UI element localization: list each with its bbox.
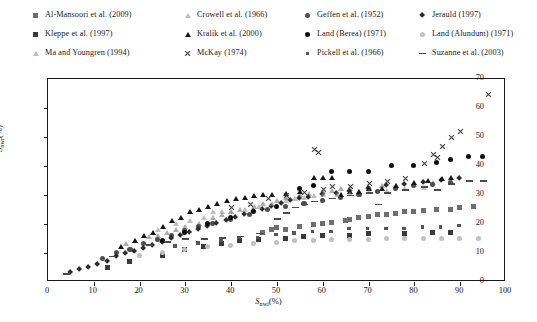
data-point	[402, 189, 409, 191]
data-point	[421, 225, 425, 229]
legend-label: Ma and Youngren (1994)	[45, 49, 130, 57]
marker-square-icon	[33, 13, 38, 18]
data-point	[329, 220, 334, 225]
data-point	[384, 178, 391, 185]
y-tick-label: 20	[460, 219, 484, 227]
legend-label: Land (Berea) (1971)	[317, 30, 386, 38]
legend-item[interactable]: Kleppe et al. (1997)	[30, 30, 182, 38]
capillary-trapping-scatter-figure: Al-Mansoori et al. (2009)Crowell et al. …	[0, 0, 537, 322]
data-point	[201, 215, 207, 220]
data-point	[315, 149, 322, 156]
data-point	[311, 175, 317, 180]
data-point	[219, 241, 224, 246]
marker-dash-icon	[419, 53, 426, 55]
legend-label: Suzanne et al. (2003)	[432, 49, 504, 57]
y-tick-label: 70	[460, 74, 484, 82]
legend-marker	[302, 32, 313, 38]
legend-item[interactable]: Kralik et al. (2000)	[182, 30, 302, 38]
data-point	[137, 253, 142, 258]
data-point	[329, 169, 334, 174]
legend-item[interactable]: Ma and Youngren (1994)	[30, 49, 182, 57]
legend-item[interactable]: Jerauld (1997)	[417, 11, 481, 19]
legend-item[interactable]: Land (Berea) (1971)	[302, 30, 417, 38]
x-tick-label: 40	[217, 287, 243, 295]
data-point	[196, 241, 200, 245]
legend-marker	[30, 51, 41, 56]
data-point	[347, 195, 354, 197]
legend-row: Al-Mansoori et al. (2009)Crowell et al. …	[30, 6, 530, 25]
data-point	[311, 222, 316, 227]
legend-marker	[30, 32, 41, 37]
marker-open-triangle-icon	[33, 51, 39, 56]
legend-item[interactable]: McKay (1974)	[182, 49, 302, 57]
data-point	[356, 215, 361, 220]
data-point	[480, 180, 487, 182]
data-point	[311, 183, 316, 188]
data-point	[402, 227, 406, 231]
data-point	[311, 230, 315, 234]
data-point	[448, 183, 455, 185]
legend-item[interactable]: Land (Alundum) (1971)	[417, 30, 513, 38]
legend-marker	[182, 13, 193, 18]
data-point	[228, 243, 233, 248]
legend-item[interactable]: Suzanne et al. (2003)	[417, 49, 504, 57]
data-point	[251, 193, 257, 198]
data-point	[274, 225, 279, 230]
data-point	[434, 189, 441, 191]
legend-marker	[182, 50, 193, 57]
data-point	[201, 238, 208, 240]
data-point	[402, 236, 407, 241]
y-tick	[44, 195, 48, 196]
legend-row: Kleppe et al. (1997)Kralik et al. (2000)…	[30, 25, 530, 44]
data-point	[366, 227, 370, 231]
data-point	[425, 178, 431, 183]
data-point	[127, 259, 132, 264]
y-tick-label: 30	[460, 190, 484, 198]
data-point	[338, 186, 344, 191]
data-point	[122, 251, 128, 257]
legend-item[interactable]: Geffen et al. (1952)	[302, 11, 417, 19]
legend-marker	[417, 13, 428, 17]
legend-marker	[417, 32, 428, 37]
data-point	[329, 230, 333, 234]
data-point	[63, 273, 70, 275]
data-point	[320, 175, 326, 180]
data-point	[292, 238, 297, 243]
data-point	[214, 220, 220, 226]
data-point	[366, 231, 371, 236]
data-point	[173, 244, 177, 248]
data-point	[205, 244, 210, 249]
x-tick-label: 70	[355, 287, 381, 295]
data-point	[393, 211, 398, 216]
data-point	[233, 196, 239, 201]
x-tick-label: 30	[171, 287, 197, 295]
data-point	[301, 189, 308, 196]
y-tick-label: 0	[460, 277, 484, 285]
data-point	[347, 183, 354, 190]
data-point	[448, 175, 454, 180]
y-tick-label: 60	[460, 103, 484, 111]
data-point	[182, 238, 189, 240]
data-point	[320, 186, 327, 193]
data-point	[265, 195, 272, 202]
data-point	[421, 160, 428, 167]
data-point	[311, 238, 316, 243]
data-point	[402, 175, 409, 182]
x-tick-label: 100	[492, 287, 518, 295]
data-point	[320, 198, 325, 203]
data-point	[311, 201, 318, 203]
y-title-symbol: Snwr(%)	[0, 125, 4, 152]
x-axis-title: Snwi(%)	[0, 296, 537, 306]
data-point	[485, 91, 492, 98]
marker-square-icon	[33, 32, 38, 37]
data-point	[146, 244, 153, 246]
data-point	[251, 241, 256, 246]
data-point	[141, 233, 147, 238]
data-point	[105, 265, 110, 270]
legend-item[interactable]: Al-Mansoori et al. (2009)	[30, 11, 182, 19]
data-point	[448, 157, 453, 162]
data-point	[274, 240, 279, 245]
data-point	[448, 230, 453, 235]
legend-item[interactable]: Pickell et al. (1966)	[302, 49, 417, 57]
legend-item[interactable]: Crowell et al. (1966)	[182, 11, 302, 19]
